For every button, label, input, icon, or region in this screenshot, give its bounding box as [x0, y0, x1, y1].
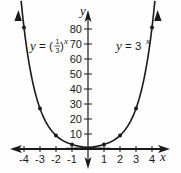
- svg-text:y = 3: y = 3: [114, 38, 141, 53]
- data-point: [102, 143, 106, 147]
- right-curve-arrow-icon: [154, 10, 162, 21]
- y-tick-label: 50: [70, 68, 82, 80]
- x-tick-label: -3: [35, 153, 45, 165]
- left-label-num: 1: [56, 38, 60, 45]
- data-point: [118, 134, 122, 138]
- y-axis-label: y: [78, 3, 86, 18]
- x-tick-label: 4: [149, 153, 155, 165]
- x-tick-label: 2: [117, 153, 123, 165]
- plot-area: -4-3-2-112341020304050607080 y x y = ( 1…: [0, 0, 181, 173]
- data-point: [38, 107, 42, 111]
- left-curve-label: y = ( 1 3 ) x: [28, 36, 68, 54]
- y-tick-label: 60: [70, 53, 82, 65]
- y-tick-label: 20: [70, 113, 82, 125]
- right-curve-label: y = 3 x: [114, 36, 150, 53]
- x-axis-label: x: [159, 149, 166, 164]
- right-label-exp: x: [145, 36, 150, 46]
- left-curve-arrow-icon: [14, 10, 22, 21]
- y-tick-label: 80: [70, 23, 82, 35]
- exponential-graph: -4-3-2-112341020304050607080 y x y = ( 1…: [0, 0, 181, 173]
- left-label-eq: = (: [36, 40, 53, 52]
- y-tick-label: 70: [70, 38, 82, 50]
- y-tick-label: 40: [70, 83, 82, 95]
- y-tick-label: 10: [70, 128, 82, 140]
- data-point: [134, 107, 138, 111]
- data-point: [22, 26, 26, 30]
- data-point: [70, 143, 74, 147]
- left-label-den: 3: [56, 47, 60, 54]
- data-point: [54, 134, 58, 138]
- svg-text:y = (: y = (: [28, 38, 53, 53]
- labels: y x y = ( 1 3 ) x y = 3 x: [28, 3, 166, 164]
- x-tick-label: -4: [19, 153, 29, 165]
- left-label-exp: x: [63, 36, 68, 46]
- x-tick-label: 1: [101, 153, 107, 165]
- y-tick-label: 30: [70, 98, 82, 110]
- x-tick-label: -2: [51, 153, 61, 165]
- x-tick-label: -1: [67, 153, 77, 165]
- x-tick-label: 3: [133, 153, 139, 165]
- data-point: [150, 26, 154, 30]
